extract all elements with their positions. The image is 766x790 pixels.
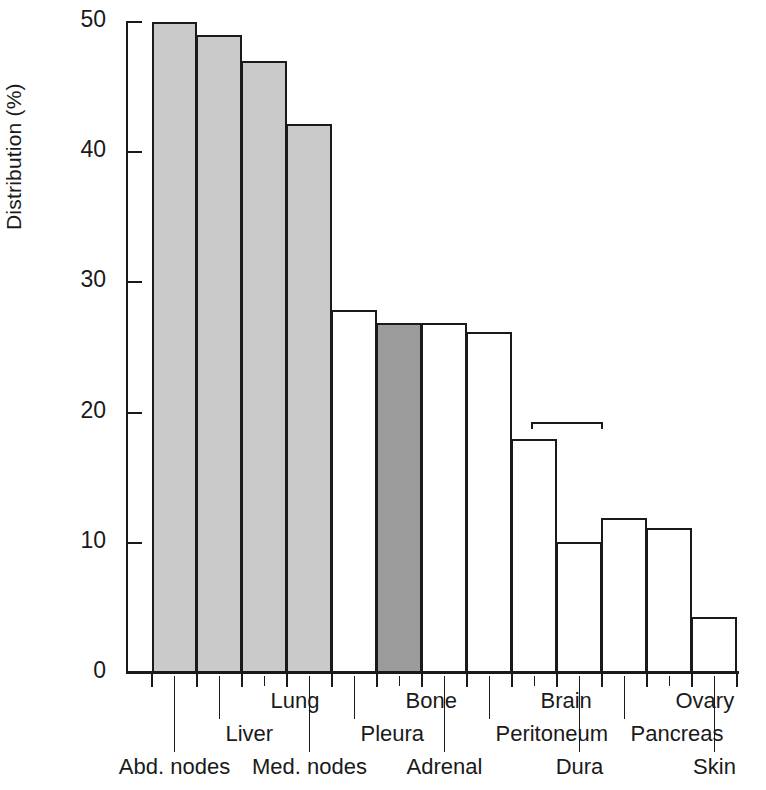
x-tick [376,673,378,687]
bar-liver [196,35,242,673]
x-axis-label-adrenal: Adrenal [407,754,483,780]
y-tick-label: 0 [0,657,118,684]
bar-lung [241,61,287,673]
x-tick [331,673,333,687]
x-axis-label-ovary: Ovary [676,688,735,714]
x-tick [151,673,153,687]
y-tick-label: 30 [0,266,118,293]
bar-ovary [646,528,692,673]
y-tick [126,21,142,23]
bar-peritoneum [466,332,512,673]
x-tick [196,673,198,687]
chart-figure: Distribution (%) 01020304050 LungBoneBra… [0,0,766,790]
y-tick-label: 50 [0,6,118,33]
bar-pleura [331,310,377,673]
x-tick [421,673,423,687]
x-tick [466,673,468,687]
bar-pancreas [601,518,647,673]
leader-line [354,676,356,719]
x-axis-label-brain: Brain [541,688,592,714]
leader-line [534,676,536,686]
leader-line [669,676,671,686]
plot-area [152,22,737,673]
y-tick [126,281,142,283]
x-axis-label-lung: Lung [271,688,320,714]
x-tick [511,673,513,687]
leader-line [174,676,176,752]
x-tick [691,673,693,687]
leader-line [264,676,266,686]
x-axis-label-pleura: Pleura [361,721,425,747]
y-tick-label: 40 [0,136,118,163]
y-tick-label: 10 [0,527,118,554]
x-axis-label-liver: Liver [226,721,274,747]
leader-line [219,676,221,719]
bracket-annotation [531,422,603,429]
y-axis-title: Distribution (%) [2,0,26,230]
x-tick [646,673,648,687]
y-tick [126,542,142,544]
x-axis-label-abd-nodes: Abd. nodes [119,754,230,780]
x-axis-label-med-nodes: Med. nodes [252,754,367,780]
bar-abd-nodes [152,22,197,673]
x-axis-label-peritoneum: Peritoneum [496,721,609,747]
x-axis-label-pancreas: Pancreas [631,721,724,747]
x-axis-label-dura: Dura [556,754,604,780]
leader-line [624,676,626,719]
x-tick [286,673,288,687]
x-tick [241,673,243,687]
y-tick [126,412,142,414]
bar-skin [691,617,737,673]
bar-dura [556,542,602,674]
bar-bone [376,323,422,673]
x-tick [556,673,558,687]
leader-line [399,676,401,686]
y-tick-label: 20 [0,397,118,424]
x-tick [601,673,603,687]
bar-brain [511,439,557,673]
x-axis-label-bone: Bone [406,688,457,714]
leader-line [489,676,491,719]
bar-med-nodes [286,124,332,673]
y-axis-line [126,22,128,673]
y-tick [126,151,142,153]
x-tick [736,673,738,687]
bar-adrenal [421,323,467,673]
x-axis-label-skin: Skin [693,754,736,780]
